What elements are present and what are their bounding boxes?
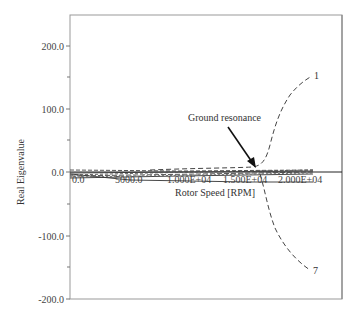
- eigenvalue-chart: 200.0 100.0 0.0 -100.0 -200.0 Real Eigen…: [0, 0, 361, 318]
- plot-frame: [70, 15, 342, 299]
- y-tick-label: 100.0: [42, 104, 65, 115]
- y-tick-label: -200.0: [38, 294, 64, 305]
- y-tick-label: 200.0: [42, 41, 65, 52]
- x-axis-title: Rotor Speed [RPM]: [175, 187, 255, 198]
- y-axis: [66, 46, 70, 299]
- y-tick-labels: 200.0 100.0 0.0 -100.0 -200.0: [38, 41, 64, 305]
- ground-resonance-label: Ground resonance: [188, 112, 262, 123]
- y-axis-title: Real Eigenvalue: [15, 139, 26, 205]
- mode-1-label: 1: [314, 70, 319, 81]
- mode-7-label: 7: [313, 265, 318, 276]
- y-tick-label: -100.0: [38, 231, 64, 242]
- y-tick-label: 0.0: [52, 167, 65, 178]
- x-tick-label: 2.000E+04: [278, 174, 322, 185]
